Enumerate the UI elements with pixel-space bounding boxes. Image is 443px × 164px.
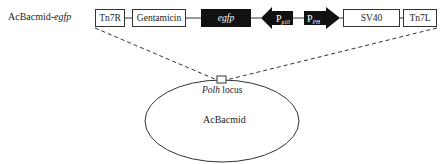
gentamicin-box: Gentamicin <box>132 9 186 27</box>
egfp-box: egfp <box>201 9 251 27</box>
sv40-label: SV40 <box>361 13 383 23</box>
tn7r-label: Tn7R <box>99 13 121 23</box>
acbacmid-label-text: AcBacmid <box>203 114 246 125</box>
acbacmid-label: AcBacmid <box>203 114 246 125</box>
tn7l-label: Tn7L <box>409 13 430 23</box>
insertion-dashed-line-left <box>95 28 217 80</box>
polh-locus-label: Polh locus <box>202 85 242 95</box>
gentamicin-label: Gentamicin <box>137 13 181 23</box>
polh-locus-suffix: locus <box>220 85 242 95</box>
polh-locus-gene: Polh <box>202 85 220 95</box>
egfp-label: egfp <box>218 13 234 23</box>
insertion-dashed-line-right <box>226 28 437 80</box>
sv40-box: SV40 <box>343 9 400 27</box>
tn7r-box: Tn7R <box>95 9 125 27</box>
tn7l-box: Tn7L <box>403 9 437 27</box>
polh-locus-marker <box>217 76 226 83</box>
